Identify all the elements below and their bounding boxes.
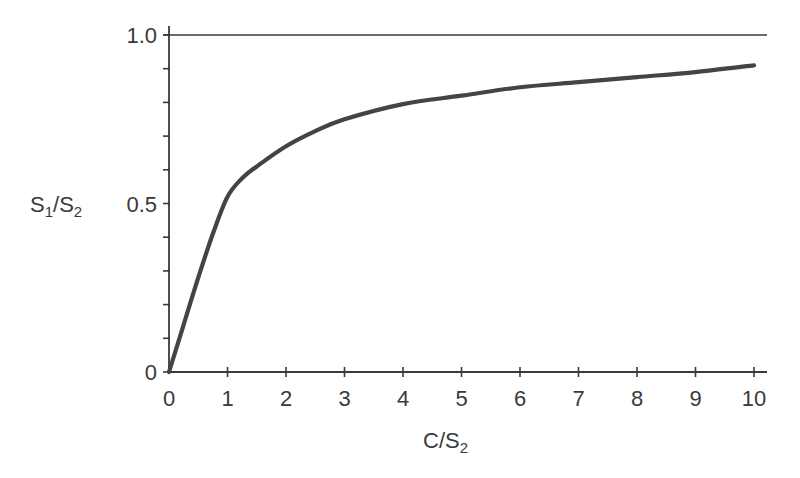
y-tick-label: 0 <box>145 360 157 385</box>
x-tick-label: 9 <box>689 386 701 411</box>
x-tick-label: 2 <box>280 386 292 411</box>
x-axis-label: C/S2 <box>423 428 468 456</box>
x-tick-label: 4 <box>397 386 409 411</box>
y-tick-label: 1.0 <box>126 23 157 48</box>
x-tick-label: 0 <box>163 386 175 411</box>
y-tick-labels: 00.51.0 <box>126 23 157 385</box>
x-tick-labels: 012345678910 <box>163 386 766 411</box>
x-tick-label: 1 <box>221 386 233 411</box>
x-tick-label: 8 <box>631 386 643 411</box>
x-tick-label: 5 <box>455 386 467 411</box>
x-tick-label: 6 <box>514 386 526 411</box>
x-tick-label: 7 <box>572 386 584 411</box>
data-curve <box>169 65 754 372</box>
y-tick-label: 0.5 <box>126 192 157 217</box>
chart: 012345678910 00.51.0 S1/S2 C/S2 <box>0 0 800 478</box>
y-axis-label: S1/S2 <box>30 192 82 220</box>
x-tick-label: 10 <box>742 386 766 411</box>
x-tick-label: 3 <box>338 386 350 411</box>
